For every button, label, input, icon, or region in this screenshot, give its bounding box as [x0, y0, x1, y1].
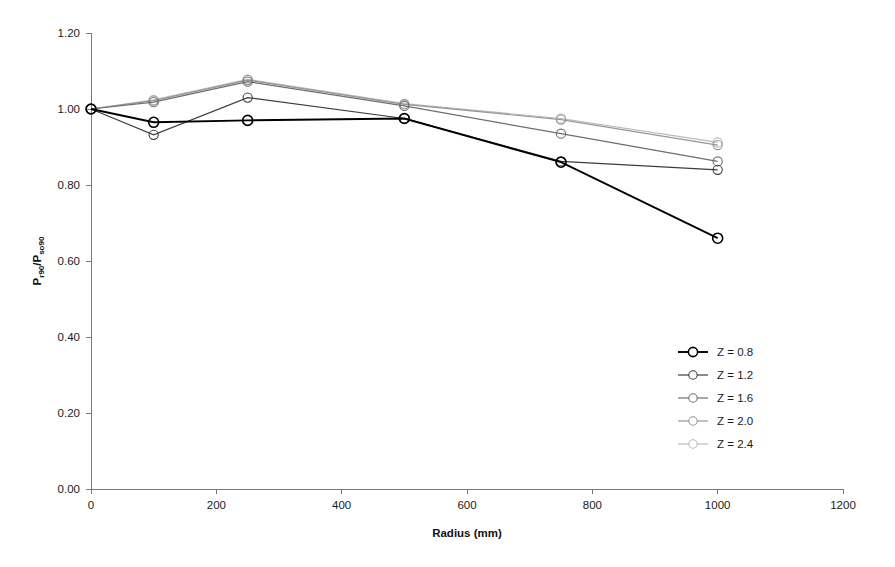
y-axis-title-slash: /P [31, 255, 43, 266]
data-point-marker [149, 98, 158, 107]
data-point-marker [149, 117, 159, 127]
legend-marker-5 [689, 440, 697, 448]
series-line [91, 80, 718, 145]
y-axis-title-sub1: r90 [37, 265, 46, 278]
chart-container: 0.000.200.400.600.801.001.20 02004006008… [0, 0, 895, 567]
chart-legend: Z = 0.8Z = 1.2Z = 1.6Z = 2.0Z = 2.4 [678, 346, 754, 450]
x-tick-label: 400 [332, 499, 351, 511]
y-tick-label: 0.40 [58, 331, 80, 343]
data-point-marker [149, 130, 158, 139]
series-z-2-0 [86, 76, 722, 150]
y-tick-label: 0.60 [58, 255, 80, 267]
data-point-marker [713, 233, 723, 243]
data-point-marker [713, 165, 722, 174]
x-axis-ticks: 020040060080010001200 [88, 489, 856, 511]
data-point-marker [713, 141, 722, 150]
y-axis-title-sub2: so90 [37, 236, 46, 255]
data-point-marker [86, 104, 96, 114]
y-tick-label: 0.20 [58, 407, 80, 419]
legend-marker-1 [688, 347, 697, 356]
data-point-marker [556, 129, 565, 138]
legend-marker-4 [689, 417, 697, 425]
legend-label-4: Z = 2.0 [717, 415, 753, 427]
series-z-0-8 [86, 104, 723, 243]
legend-marker-2 [689, 371, 697, 379]
y-tick-label: 1.20 [58, 27, 80, 39]
y-axis-title: Pr90/Pso90 [31, 236, 46, 285]
legend-label-5: Z = 2.4 [717, 438, 754, 450]
y-axis-ticks: 0.000.200.400.600.801.001.20 [58, 27, 91, 495]
data-point-marker [243, 115, 253, 125]
x-tick-label: 800 [583, 499, 602, 511]
legend-label-3: Z = 1.6 [717, 392, 753, 404]
legend-label-1: Z = 0.8 [717, 346, 753, 358]
legend-marker-3 [689, 394, 697, 402]
y-tick-label: 0.80 [58, 179, 80, 191]
x-tick-label: 600 [457, 499, 476, 511]
data-point-marker [243, 77, 252, 86]
data-point-marker [400, 101, 409, 110]
data-series-group [86, 75, 723, 243]
data-point-marker [556, 115, 565, 124]
x-tick-label: 1200 [830, 499, 856, 511]
x-tick-label: 0 [88, 499, 94, 511]
line-chart: 0.000.200.400.600.801.001.20 02004006008… [0, 0, 895, 567]
legend-label-2: Z = 1.2 [717, 369, 753, 381]
data-point-marker [243, 93, 252, 102]
x-tick-label: 200 [207, 499, 226, 511]
svg-text:Pr90/Pso90: Pr90/Pso90 [31, 236, 46, 285]
data-point-marker [556, 157, 566, 167]
y-tick-label: 1.00 [58, 103, 80, 115]
x-axis-title: Radius (mm) [432, 527, 502, 539]
x-tick-label: 1000 [705, 499, 731, 511]
data-point-marker [399, 114, 409, 124]
y-tick-label: 0.00 [58, 483, 80, 495]
